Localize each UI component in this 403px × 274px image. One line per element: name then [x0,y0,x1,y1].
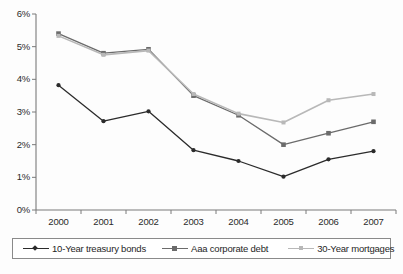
legend-item-0[interactable]: 10-Year treasury bonds [23,243,146,254]
x-axis-tick-label-2002: 2002 [129,216,169,227]
data-point [372,92,376,96]
x-axis-tick-label-2006: 2006 [309,216,349,227]
chart-series-layer [56,31,376,178]
y-axis-tick-label-4: 4% [2,73,30,84]
legend-item-2[interactable]: 30-Year mortgages [288,243,394,254]
data-point [237,112,241,116]
legend-marker-icon [299,246,303,250]
data-point [191,148,195,152]
data-point [326,131,331,136]
x-axis-ticks [36,210,396,214]
series-30-year-mortgages [57,34,376,125]
data-point [147,49,151,53]
chart-legend: 10-Year treasury bondsAaa corporate debt… [12,238,391,259]
x-axis-tick-label-2003: 2003 [174,216,214,227]
legend-swatch-icon [162,244,188,254]
y-axis-tick-label-0: 0% [2,204,30,215]
y-axis-tick-label-1: 1% [2,171,30,182]
y-axis-ticks [32,14,36,210]
x-axis-tick-label-2005: 2005 [264,216,304,227]
series-line [59,34,374,145]
chart-plot-svg [0,0,403,232]
legend-label: 30-Year mortgages [317,243,394,254]
data-point [236,159,240,163]
y-axis-tick-label-2: 2% [2,139,30,150]
legend-swatch-icon [23,244,49,254]
y-axis-tick-label-3: 3% [2,106,30,117]
data-point [327,98,331,102]
legend-label: 10-Year treasury bonds [52,243,146,254]
data-point [101,119,105,123]
legend-label: Aaa corporate debt [191,243,268,254]
legend-marker-icon [32,245,38,251]
data-point [56,83,60,87]
series-line [59,36,374,123]
series-aaa-corporate-debt [56,31,376,147]
data-point [57,34,61,38]
legend-swatch-icon [288,244,314,254]
legend-marker-icon [172,246,177,251]
data-point [281,175,285,179]
data-point [371,149,375,153]
legend-item-1[interactable]: Aaa corporate debt [162,243,268,254]
line-chart: 0%1%2%3%4%5%6% 2000200120022003200420052… [0,0,403,232]
x-axis-tick-label-2000: 2000 [39,216,79,227]
data-point [326,157,330,161]
y-axis-tick-label-6: 6% [2,8,30,19]
x-axis-tick-label-2004: 2004 [219,216,259,227]
chart-page: 0%1%2%3%4%5%6% 2000200120022003200420052… [0,0,403,274]
data-point [371,120,376,125]
data-point [146,109,150,113]
x-axis-tick-label-2007: 2007 [354,216,394,227]
data-point [282,120,286,124]
x-axis-tick-label-2001: 2001 [84,216,124,227]
data-point [192,92,196,96]
data-point [281,142,286,147]
y-axis-tick-label-5: 5% [2,41,30,52]
data-point [102,53,106,57]
